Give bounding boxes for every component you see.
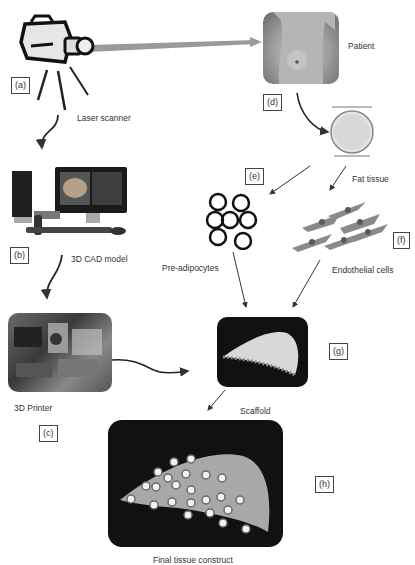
step-tag-b: (b) — [10, 247, 29, 264]
step-tag-f: (f) — [393, 232, 410, 249]
patient-torso-photo — [263, 12, 339, 84]
step-tag-c: (c) — [39, 425, 58, 442]
scaffold-label: Scaffold — [240, 406, 271, 416]
pre-adipocytes-icon — [203, 190, 263, 250]
scanner-beam — [88, 40, 258, 52]
cad-model-label: 3D CAD model — [71, 254, 128, 264]
step-tag-d: (d) — [263, 94, 282, 111]
scaffold-render — [217, 317, 308, 387]
laser-scanner-camera-icon — [5, 8, 95, 68]
patient-label: Patient — [348, 41, 374, 51]
fat-tissue-label: Fat tissue — [352, 174, 389, 184]
final-tissue-construct-label: Final tissue construct — [153, 555, 233, 565]
3d-printer-label: 3D Printer — [14, 403, 52, 413]
3d-printer-photo — [8, 313, 112, 392]
step-tag-g: (g) — [329, 343, 348, 360]
fat-tissue-dish-icon — [328, 104, 376, 160]
laser-scanner-label: Laser scanner — [77, 113, 131, 123]
step-tag-e: (e) — [245, 168, 264, 185]
endothelial-cells-label: Endothelial cells — [332, 265, 393, 275]
desktop-computer-icon — [10, 163, 130, 238]
step-tag-h: (h) — [315, 476, 334, 493]
final-tissue-construct-render — [108, 420, 283, 547]
pre-adipocytes-label: Pre-adipocytes — [162, 263, 219, 273]
endothelial-cells-icon — [288, 198, 388, 254]
step-tag-a: (a) — [11, 77, 30, 94]
